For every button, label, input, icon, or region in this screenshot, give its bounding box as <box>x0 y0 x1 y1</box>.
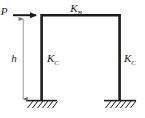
height-label: h <box>11 52 17 64</box>
right-fixed-support <box>104 101 136 108</box>
left-fixed-support <box>26 101 58 108</box>
load-symbol: P <box>0 5 8 17</box>
left-column-subscript: C <box>54 59 59 67</box>
load-label: P <box>0 5 8 17</box>
height-symbol: h <box>11 52 17 64</box>
right-column-stiffness-label: KC <box>123 52 136 67</box>
beam-subscript: B <box>78 9 83 17</box>
right-support-hatching <box>106 101 137 108</box>
left-support-hatching <box>28 101 58 108</box>
right-column-subscript: C <box>131 59 136 67</box>
diagram-canvas: P KB KC KC h <box>0 0 145 118</box>
left-column-stiffness-label: KC <box>46 52 59 67</box>
frame-diagram-figure: P KB KC KC h <box>0 0 145 118</box>
